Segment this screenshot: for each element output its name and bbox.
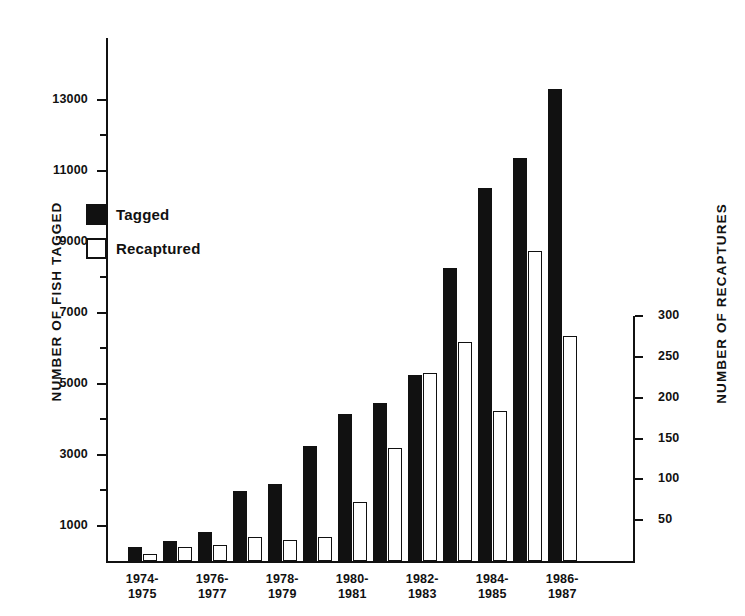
x-axis-category-label: 1982-1983 — [392, 572, 452, 602]
y-axis-right-title: NUMBER OF RECAPTURES — [714, 139, 729, 469]
bar-recaptured — [283, 540, 297, 561]
bar-tagged — [303, 446, 317, 561]
x-axis-category-label-line2: 1983 — [392, 587, 452, 602]
x-axis-category-label-line1: 1982- — [392, 572, 452, 587]
bar-recaptured — [318, 537, 332, 562]
x-axis-category-label-line1: 1974- — [112, 572, 172, 587]
y-axis-left-tick — [97, 454, 106, 456]
x-axis-category-label-line2: 1979 — [252, 587, 312, 602]
bar-recaptured — [143, 554, 157, 561]
legend-label: Tagged — [116, 206, 169, 223]
x-axis-category-label-line2: 1977 — [182, 587, 242, 602]
bar-tagged — [443, 268, 457, 561]
bar-recaptured — [178, 547, 192, 561]
y-axis-right-tick-label: 50 — [658, 512, 672, 526]
x-axis-category-label-line2: 1987 — [532, 587, 592, 602]
x-axis-line — [106, 561, 635, 563]
bar-tagged — [163, 541, 177, 561]
bar-recaptured — [353, 502, 367, 561]
x-axis-category-label: 1986-1987 — [532, 572, 592, 602]
y-axis-right-tick — [635, 315, 643, 317]
x-axis-category-label: 1984-1985 — [462, 572, 522, 602]
y-axis-left-title: NUMBER OF FISH TAGGED — [49, 142, 64, 462]
legend-swatch-filled — [86, 204, 107, 225]
bar-tagged — [548, 89, 562, 561]
x-axis-category-label: 1974-1975 — [112, 572, 172, 602]
x-axis-category-label-line1: 1980- — [322, 572, 382, 587]
bar-tagged — [408, 375, 422, 561]
y-axis-right-tick-label: 250 — [658, 349, 679, 363]
y-axis-left-minor-tick — [100, 347, 106, 349]
bar-recaptured — [493, 411, 507, 561]
legend-item: Recaptured — [86, 237, 201, 259]
y-axis-left-tick — [97, 525, 106, 527]
bar-recaptured — [388, 448, 402, 561]
x-axis-category-label-line2: 1981 — [322, 587, 382, 602]
bar-tagged — [373, 403, 387, 561]
y-axis-right-tick-label: 150 — [658, 431, 679, 445]
y-axis-right-tick — [635, 478, 643, 480]
y-axis-left-tick-label: 9000 — [18, 234, 88, 248]
y-axis-left-tick-label: 11000 — [18, 163, 88, 177]
x-axis-category-label: 1980-1981 — [322, 572, 382, 602]
bar-recaptured — [213, 545, 227, 561]
bar-tagged — [128, 547, 142, 561]
y-axis-left-minor-tick — [100, 489, 106, 491]
x-axis-category-label: 1978-1979 — [252, 572, 312, 602]
plot-area: 100030005000700090001100013000 501001502… — [106, 38, 635, 562]
y-axis-left-line — [106, 38, 108, 563]
y-axis-left-tick-label: 7000 — [18, 305, 88, 319]
bar-recaptured — [458, 342, 472, 561]
x-axis-category-label-line1: 1976- — [182, 572, 242, 587]
x-axis-category-label-line1: 1978- — [252, 572, 312, 587]
chart-figure: NUMBER OF FISH TAGGED NUMBER OF RECAPTUR… — [0, 0, 745, 616]
y-axis-left-tick — [97, 170, 106, 172]
y-axis-left-tick — [97, 99, 106, 101]
y-axis-left-tick-label: 5000 — [18, 376, 88, 390]
y-axis-right-tick-label: 200 — [658, 390, 679, 404]
y-axis-left-tick-label: 1000 — [18, 518, 88, 532]
x-axis-category-label-line2: 1975 — [112, 587, 172, 602]
bar-tagged — [478, 188, 492, 561]
legend-item: Tagged — [86, 203, 201, 225]
bar-recaptured — [423, 373, 437, 561]
x-axis-category-label-line1: 1986- — [532, 572, 592, 587]
y-axis-right-tick — [635, 397, 643, 399]
y-axis-left-tick — [97, 383, 106, 385]
y-axis-right-line — [633, 316, 635, 563]
x-axis-category-label-line1: 1984- — [462, 572, 522, 587]
y-axis-right-tick — [635, 438, 643, 440]
bar-recaptured — [528, 251, 542, 561]
y-axis-right-tick-label: 300 — [658, 308, 679, 322]
x-axis-category-label-line2: 1985 — [462, 587, 522, 602]
y-axis-left-minor-tick — [100, 276, 106, 278]
legend-label: Recaptured — [116, 240, 201, 257]
bar-tagged — [233, 491, 247, 561]
bar-recaptured — [248, 537, 262, 562]
chart-legend: TaggedRecaptured — [86, 203, 201, 271]
bar-tagged — [338, 414, 352, 561]
y-axis-left-minor-tick — [100, 134, 106, 136]
x-axis-category-label: 1976-1977 — [182, 572, 242, 602]
bar-tagged — [198, 532, 212, 561]
y-axis-left-tick-label: 3000 — [18, 447, 88, 461]
y-axis-right-tick-label: 100 — [658, 471, 679, 485]
y-axis-right-tick — [635, 356, 643, 358]
legend-swatch-hollow — [86, 238, 107, 259]
y-axis-left-minor-tick — [100, 418, 106, 420]
bar-tagged — [513, 158, 527, 561]
y-axis-left-tick — [97, 312, 106, 314]
y-axis-left-tick-label: 13000 — [18, 92, 88, 106]
y-axis-right-tick — [635, 519, 643, 521]
bar-recaptured — [563, 336, 577, 561]
bar-tagged — [268, 484, 282, 561]
